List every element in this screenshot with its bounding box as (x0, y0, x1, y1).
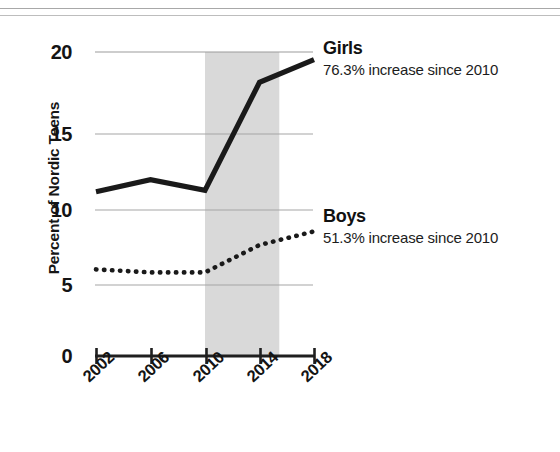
chart-figure: Percent of Nordic Teens 20 15 10 5 0 200… (0, 0, 560, 452)
annotation-subtitle-boys: 51.3% increase since 2010 (323, 229, 498, 246)
annotation-subtitle-girls: 76.3% increase since 2010 (323, 61, 498, 78)
annotation-title-girls: Girls (323, 38, 363, 59)
shaded-region (205, 52, 279, 356)
annotation-title-boys: Boys (323, 206, 366, 227)
